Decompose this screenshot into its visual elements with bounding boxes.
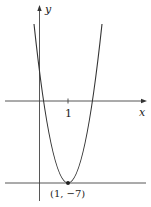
x-axis-label: x — [139, 106, 146, 119]
vertex-label: (1, −7) — [50, 188, 85, 199]
parabola-graph: y x 1 (1, −7) — [0, 0, 151, 207]
vertex-point — [66, 181, 70, 185]
x-axis-arrow-icon — [141, 99, 147, 103]
x-tick-label-1: 1 — [65, 107, 72, 120]
y-axis-arrow-icon — [37, 5, 41, 11]
y-axis-label: y — [44, 3, 52, 16]
